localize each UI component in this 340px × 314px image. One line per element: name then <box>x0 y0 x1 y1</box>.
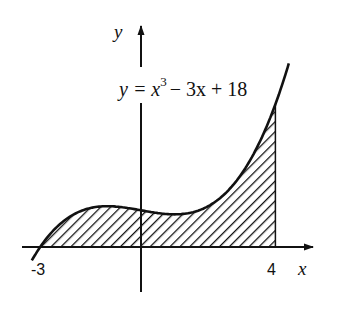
equation-rhs: − 3x + 18 <box>170 78 248 100</box>
equation-exponent: 3 <box>160 74 167 89</box>
tick-label-neg3: -3 <box>31 261 45 278</box>
equation-label: y = x3− 3x + 18 <box>117 74 247 101</box>
x-axis-label: x <box>297 258 307 279</box>
tick-label-4: 4 <box>267 261 276 278</box>
y-axis-label: y <box>112 21 123 42</box>
chart-canvas: y x -3 4 y = x3− 3x + 18 <box>0 0 340 314</box>
equation-lhs: y = x <box>117 78 160 101</box>
